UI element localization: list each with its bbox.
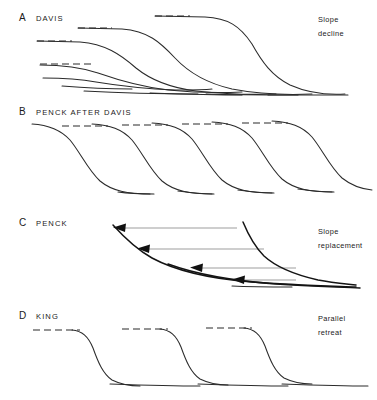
panel-d-letter: D [19, 310, 26, 321]
panel-c-name: PENCK [36, 219, 68, 228]
panel-d-side-label-line1: Parallel [318, 314, 345, 323]
panel-b-name: PENCK AFTER DAVIS [36, 108, 132, 117]
panel-a-name: DAVIS [36, 14, 64, 23]
panel-c-side-label-line1: Slope [318, 227, 339, 236]
panel-b-letter: B [19, 106, 26, 117]
panel-d-side-label-line2: retreat [318, 328, 342, 337]
panel-c-side-label-line2: replacement [318, 241, 363, 250]
panel-a-side-label-line2: decline [318, 29, 344, 38]
panel-d-name: KING [36, 312, 59, 321]
panel-a-side-label-line1: Slope [318, 15, 339, 24]
figure-background [0, 0, 377, 400]
panel-c-letter: C [19, 217, 26, 228]
panel-a-letter: A [19, 12, 26, 23]
slope-evolution-figure: A DAVIS Slope decline [0, 0, 377, 400]
